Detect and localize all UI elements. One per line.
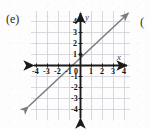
y-axis-label: y — [85, 13, 89, 22]
y-tick-neg4: -4 — [71, 106, 78, 114]
y-tick-neg2: -2 — [71, 84, 78, 92]
y-tick-4: 4 — [73, 18, 77, 26]
y-tick-1: 1 — [73, 51, 77, 59]
x-tick-2: 2 — [100, 68, 104, 76]
x-tick-1: 1 — [89, 68, 93, 76]
y-tick-2: 2 — [73, 40, 77, 48]
y-tick-neg3: -3 — [71, 95, 78, 103]
x-axis-label: x — [117, 53, 121, 62]
graph-figure: (e) — [0, 0, 150, 129]
y-tick-neg1: -1 — [71, 73, 78, 81]
x-tick-3: 3 — [111, 68, 115, 76]
x-tick-4: 4 — [122, 68, 126, 76]
trailing-paren: ( — [140, 14, 144, 30]
x-tick-neg2: -2 — [54, 68, 61, 76]
x-tick-neg3: -3 — [43, 68, 50, 76]
y-tick-3: 3 — [73, 29, 77, 37]
x-tick-neg4: -4 — [32, 68, 39, 76]
